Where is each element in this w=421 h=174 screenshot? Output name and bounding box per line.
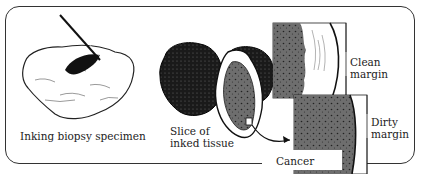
cancer-label: Cancer — [276, 155, 314, 167]
clean-margin-label-line1: Clean — [350, 56, 381, 68]
inked-tissue-icon — [160, 43, 274, 138]
clean-margin-label-line2: margin — [350, 68, 388, 80]
dirty-margin-label-line1: Dirty — [371, 116, 398, 128]
clean-margin-panel — [273, 23, 346, 98]
biopsy-specimen-icon — [23, 14, 134, 119]
slice-label-line2: inked tissue — [170, 137, 234, 149]
inking-biopsy-label: Inking biopsy specimen — [20, 130, 146, 142]
dirty-margin-label-line2: margin — [371, 128, 409, 140]
slice-label-line1: Slice of — [170, 125, 210, 137]
